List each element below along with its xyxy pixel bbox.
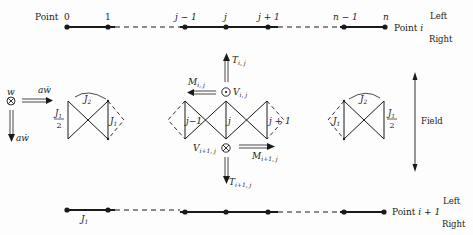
point-label-n: n <box>383 12 389 22</box>
point-label-j-minus-1: j − 1 <box>173 12 197 22</box>
col-label-j-minus-1: j−1 <box>184 116 202 126</box>
field-double-arrow-icon <box>413 72 418 172</box>
svg-text:J1: J1 <box>386 108 395 119</box>
svg-text:2: 2 <box>390 121 395 130</box>
aw-down-label: aẇ <box>16 133 29 143</box>
out-of-page-icon <box>222 88 230 96</box>
aw-right-arrow-icon <box>22 97 53 104</box>
v-i1j-label: Vi+1, j <box>193 143 216 155</box>
left-bowtie-plaquette <box>68 93 124 140</box>
point-j-minus-1-node <box>182 24 187 29</box>
svg-text:J1: J1 <box>53 108 62 119</box>
diagram-canvas: Point 0 1 j − 1 j j + 1 n − 1 n Point i … <box>0 0 473 235</box>
m-i1j-right-arrow-icon <box>239 143 275 150</box>
aw-right-label: aẇ <box>38 85 51 95</box>
m-ij-left-arrow-icon <box>187 89 216 96</box>
svg-text:2: 2 <box>57 121 62 130</box>
point-1-node <box>105 24 110 29</box>
bottom-point-1-node <box>105 207 110 212</box>
top-side-left-label: Left <box>430 11 448 21</box>
top-chain: Point 0 1 j − 1 j j + 1 n − 1 n Point i … <box>35 11 453 44</box>
w-label: w <box>7 87 15 97</box>
point-label-n-minus-1: n − 1 <box>333 12 358 22</box>
t-ij-label: Ti, j <box>232 55 246 67</box>
right-half-j1-fraction: J1 2 <box>386 108 397 130</box>
point-label-j-plus-1: j + 1 <box>256 12 280 22</box>
v-ij-label: Vi, j <box>233 87 247 99</box>
aw-down-arrow-icon <box>8 110 15 142</box>
m-ij-label: Mi, j <box>187 77 205 89</box>
point-n-minus-1-node <box>341 24 346 29</box>
bottom-point-j-minus-1-node <box>182 209 187 214</box>
col-label-j-plus-1: j + 1 <box>267 116 291 126</box>
t-ij-up-arrow-icon <box>223 53 230 82</box>
point-j-node <box>223 24 228 29</box>
point-label-0: 0 <box>64 12 70 22</box>
left-j1-label: J1 <box>108 116 117 127</box>
m-i1j-label: Mi+1, j <box>251 151 278 163</box>
bottom-j1-label: J1 <box>79 214 88 225</box>
point-n-node <box>382 24 387 29</box>
t-i1j-label: Ti+1, j <box>229 177 252 189</box>
bottom-point-j-plus-1-node <box>265 209 270 214</box>
left-unit: w aẇ aẇ <box>7 85 124 143</box>
top-side-right-label: Right <box>429 34 453 44</box>
top-chain-start-label: Point <box>35 12 59 22</box>
bottom-side-right-label: Right <box>442 219 466 229</box>
left-half-j1-fraction: J1 2 <box>53 108 64 130</box>
lattice-diagram: Point 0 1 j − 1 j j + 1 n − 1 n Point i … <box>0 0 473 235</box>
into-page-lower-icon <box>222 144 230 152</box>
top-chain-end-label: Point i <box>394 23 423 33</box>
field-label: Field <box>421 116 443 126</box>
point-0-node <box>64 24 69 29</box>
right-unit: J2 J1 J1 2 Field <box>328 72 443 172</box>
point-j-plus-1-node <box>265 24 270 29</box>
left-j2-label: J2 <box>82 94 92 105</box>
bottom-side-left-label: Left <box>443 196 461 206</box>
bottom-point-0-node <box>64 207 69 212</box>
col-label-j: j <box>226 116 231 126</box>
point-label-1: 1 <box>105 12 111 22</box>
bottom-chain: J1 Point i + 1 Left Right <box>64 196 466 229</box>
point-label-j: j <box>222 12 227 22</box>
bottom-point-n-node <box>381 209 386 214</box>
into-page-icon <box>7 97 15 105</box>
right-j1-label: J1 <box>331 116 340 127</box>
bottom-point-j-node <box>223 209 228 214</box>
bottom-point-n-minus-1-node <box>341 209 346 214</box>
right-j2-label: J2 <box>358 94 368 105</box>
center-unit: Ti, j Mi, j Vi, j j−1 j j + 1 <box>168 53 291 189</box>
bottom-chain-end-label: Point i + 1 <box>392 207 440 217</box>
